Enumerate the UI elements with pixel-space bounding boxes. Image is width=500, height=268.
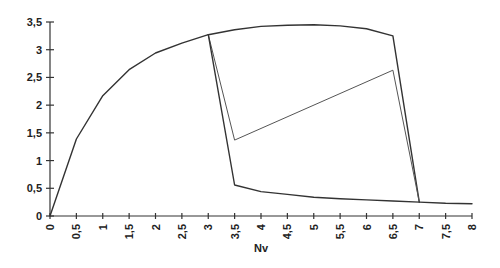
x-tick-label: 0: [44, 224, 56, 230]
y-tick-label: 2: [36, 99, 42, 111]
series-upper-plateau: [208, 25, 419, 202]
x-tick-label: 1: [97, 224, 109, 230]
x-tick-label: 6,5: [387, 224, 399, 239]
y-tick-label: 3: [36, 44, 42, 56]
y-tick-label: 1,5: [27, 127, 42, 139]
y-tick-label: 0: [36, 210, 42, 222]
x-tick-label: 2,5: [176, 224, 188, 239]
x-tick-label: 8: [466, 224, 478, 230]
series-lower-decay: [208, 35, 472, 204]
x-tick-label: 5: [308, 224, 320, 230]
y-tick-label: 1: [36, 155, 42, 167]
x-tick-label: 5,5: [334, 224, 346, 239]
x-tick-label: 4: [255, 223, 267, 230]
x-tick-label: 7: [413, 224, 425, 230]
axes: 00,511,522,533,500,511,522,533,544,555,5…: [27, 16, 478, 239]
x-tick-label: 6: [361, 224, 373, 230]
x-tick-label: 3,5: [229, 224, 241, 239]
x-tick-label: 0,5: [70, 224, 82, 239]
line-chart: 00,511,522,533,500,511,522,533,544,555,5…: [0, 0, 500, 268]
y-tick-label: 3,5: [27, 16, 42, 28]
series-inner-loop: [208, 35, 419, 202]
y-tick-label: 2,5: [27, 71, 42, 83]
series-rising-curve: [50, 35, 208, 216]
x-tick-label: 4,5: [281, 224, 293, 239]
series-layer: [50, 25, 472, 216]
x-tick-label: 1,5: [123, 224, 135, 239]
x-tick-label: 7,5: [440, 224, 452, 239]
x-tick-label: 3: [202, 224, 214, 230]
x-tick-label: 2: [150, 224, 162, 230]
y-tick-label: 0,5: [27, 182, 42, 194]
x-axis-title: Nv: [254, 242, 269, 254]
